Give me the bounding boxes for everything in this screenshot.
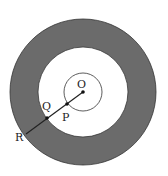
- diagram-canvas: O P Q R: [0, 0, 168, 176]
- label-O: O: [77, 78, 86, 91]
- point-P: [65, 102, 69, 106]
- label-Q: Q: [42, 100, 51, 113]
- label-P: P: [62, 111, 70, 124]
- point-Q: [45, 116, 49, 120]
- label-R: R: [15, 131, 24, 144]
- concentric-circles-diagram: O P Q R: [0, 0, 168, 176]
